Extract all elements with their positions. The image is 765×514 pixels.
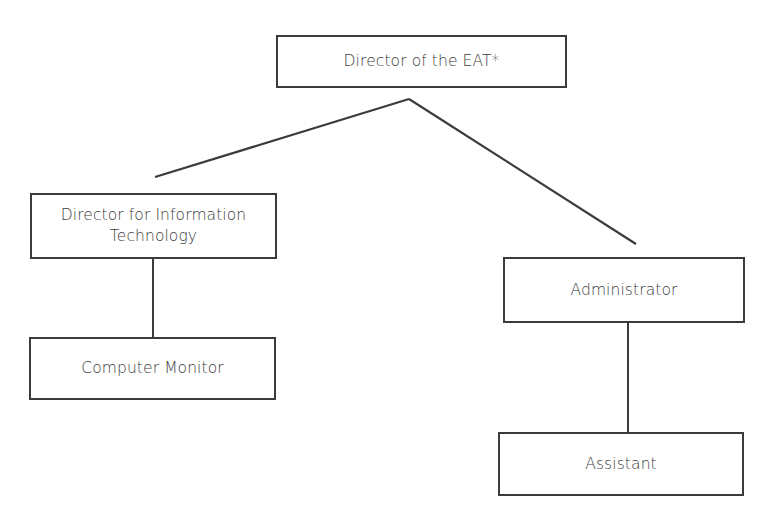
node-label-line2: Technology	[110, 226, 197, 247]
node-administrator: Administrator	[503, 257, 745, 323]
node-director-for-it: Director for Information Technology	[30, 193, 277, 259]
connector-eat-to-administrator	[409, 99, 636, 244]
node-label: Administrator	[571, 280, 678, 301]
node-label: Director of the EAT*	[344, 51, 500, 72]
node-assistant: Assistant	[498, 432, 744, 496]
node-computer-monitor: Computer Monitor	[29, 337, 276, 400]
node-director-of-eat: Director of the EAT*	[276, 35, 567, 88]
node-label-line1: Director for Information	[61, 205, 247, 226]
node-label: Computer Monitor	[81, 358, 224, 379]
node-label: Assistant	[585, 454, 657, 475]
connector-eat-to-it	[155, 99, 409, 177]
